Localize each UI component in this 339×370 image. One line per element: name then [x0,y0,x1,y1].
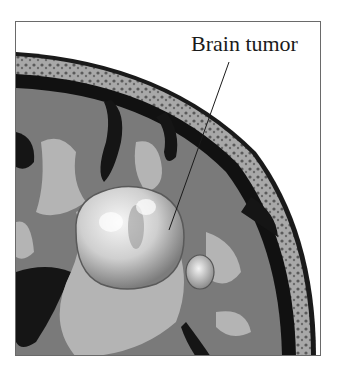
brain-cross-section-illustration [16,22,321,356]
brain-tumor-label: Brain tumor [191,33,298,55]
brain-tumor [76,186,184,289]
illustration-frame [15,21,321,356]
small-tumor-nodule [186,255,214,289]
